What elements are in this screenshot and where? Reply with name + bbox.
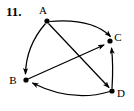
- edge-d-to-c: [112, 48, 113, 89]
- vertex-dot-c: [107, 38, 112, 43]
- vertex-dot-d: [109, 88, 114, 93]
- edge-b-to-c: [28, 45, 104, 79]
- vertex-label-group: A B C D: [9, 4, 125, 99]
- vertex-label-a: A: [39, 4, 47, 16]
- vertex-label-b: B: [9, 74, 16, 86]
- edge-a-to-b: [26, 24, 46, 75]
- edge-d-to-b: [33, 83, 111, 96]
- directed-graph-svg: A B C D: [0, 0, 134, 111]
- vertex-dot-b: [23, 77, 28, 82]
- vertex-dot-a: [44, 18, 49, 23]
- edge-a-to-d: [49, 24, 110, 88]
- edge-group: [26, 21, 113, 96]
- vertex-label-c: C: [114, 31, 121, 43]
- figure-container: 11. A B C D: [0, 0, 134, 111]
- vertex-label-d: D: [117, 87, 125, 99]
